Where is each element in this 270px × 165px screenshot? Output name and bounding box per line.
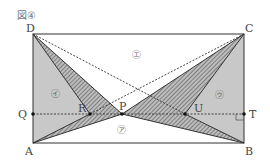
point-T-dot xyxy=(242,112,246,116)
label-P: P xyxy=(119,101,126,112)
region-label-i: ㋑ xyxy=(51,90,60,99)
label-R: R xyxy=(78,103,86,114)
region-label-a: ㋐ xyxy=(117,126,126,135)
figure-caption: 図④ xyxy=(17,7,36,22)
label-C: C xyxy=(245,23,253,34)
label-U: U xyxy=(194,103,203,114)
region-label-e: ㋓ xyxy=(132,51,141,60)
geometry-figure xyxy=(0,0,270,165)
label-D: D xyxy=(26,23,35,34)
point-R-dot xyxy=(88,112,92,116)
label-A: A xyxy=(25,146,33,157)
point-U-dot xyxy=(183,112,187,116)
label-Q: Q xyxy=(18,109,27,120)
region-label-u: ㋒ xyxy=(215,91,224,100)
label-T: T xyxy=(249,109,256,120)
label-B: B xyxy=(245,146,253,157)
point-Q-dot xyxy=(31,112,35,116)
